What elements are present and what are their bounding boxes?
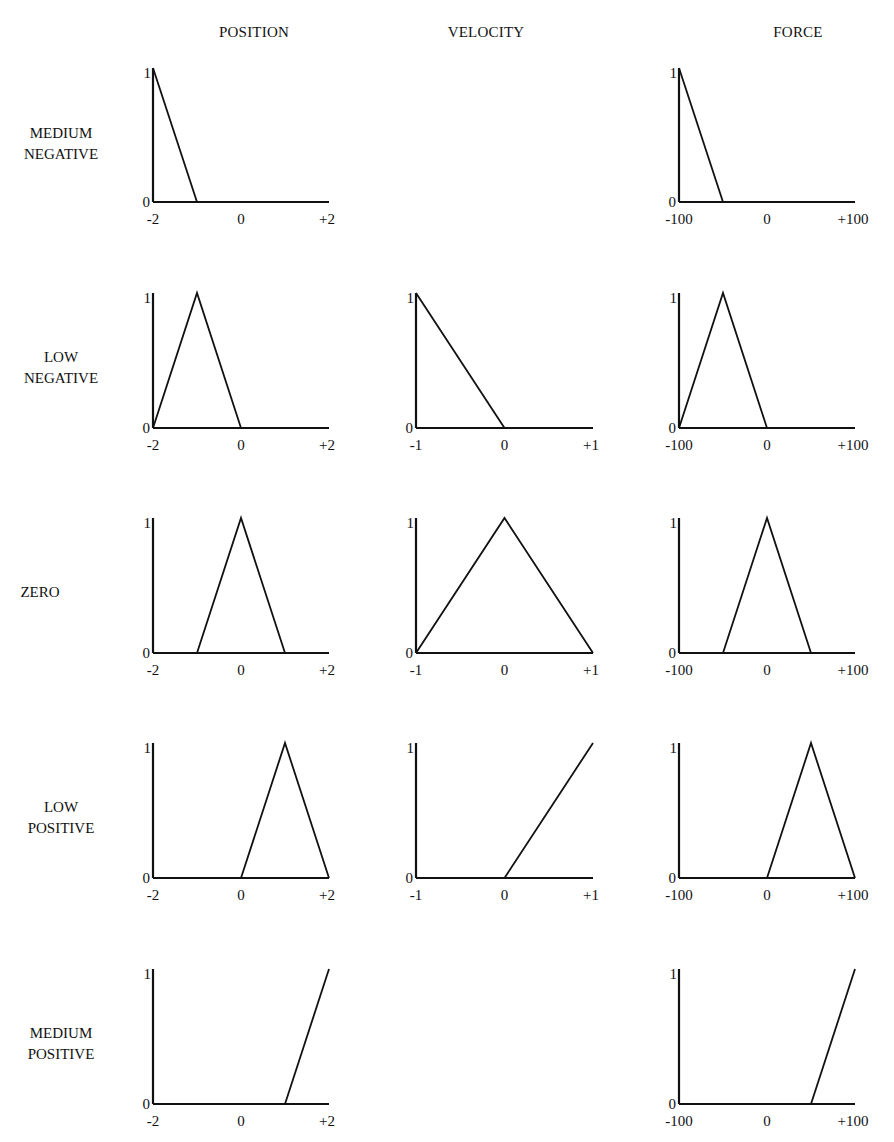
y-tick-0: 0 <box>669 645 677 661</box>
y-tick-0: 0 <box>406 420 414 436</box>
membership-curve-zero-force <box>723 518 811 653</box>
y-tick-1: 1 <box>144 740 152 756</box>
x-tick-min: -2 <box>147 1113 160 1129</box>
x-tick-mid: 0 <box>763 887 771 903</box>
x-tick-max: +100 <box>838 887 869 903</box>
y-tick-0: 0 <box>143 1096 151 1112</box>
membership-curve-low-positive-velocity <box>505 743 594 878</box>
x-tick-min: -2 <box>147 211 160 227</box>
membership-curve-low-negative-position <box>153 293 241 428</box>
x-tick-min: -2 <box>147 662 160 678</box>
x-tick-mid: 0 <box>501 437 509 453</box>
x-tick-max: +2 <box>319 211 335 227</box>
x-tick-mid: 0 <box>501 662 509 678</box>
x-tick-max: +100 <box>838 662 869 678</box>
membership-curve-medium-negative-force <box>679 68 723 202</box>
x-tick-min: -1 <box>410 437 423 453</box>
y-tick-1: 1 <box>670 740 678 756</box>
x-tick-min: -1 <box>410 887 423 903</box>
membership-curve-medium-negative-position <box>153 68 197 202</box>
y-tick-0: 0 <box>143 645 151 661</box>
membership-curve-medium-positive-force <box>811 969 855 1104</box>
y-tick-0: 0 <box>669 194 677 210</box>
x-tick-max: +1 <box>583 887 599 903</box>
x-tick-min: -2 <box>147 437 160 453</box>
y-tick-1: 1 <box>407 740 415 756</box>
x-tick-max: +1 <box>583 662 599 678</box>
y-tick-1: 1 <box>144 515 152 531</box>
x-tick-mid: 0 <box>237 662 245 678</box>
x-tick-min: -100 <box>665 437 693 453</box>
y-tick-0: 0 <box>143 870 151 886</box>
x-tick-max: +2 <box>319 437 335 453</box>
x-tick-mid: 0 <box>237 437 245 453</box>
y-tick-1: 1 <box>144 290 152 306</box>
x-tick-min: -100 <box>665 887 693 903</box>
membership-curve-zero-velocity <box>416 518 593 653</box>
y-tick-1: 1 <box>670 65 678 81</box>
x-tick-mid: 0 <box>237 211 245 227</box>
x-tick-mid: 0 <box>763 1113 771 1129</box>
x-tick-max: +1 <box>583 437 599 453</box>
y-tick-0: 0 <box>143 194 151 210</box>
x-tick-mid: 0 <box>763 662 771 678</box>
y-tick-1: 1 <box>144 966 152 982</box>
x-tick-min: -2 <box>147 887 160 903</box>
x-tick-min: -100 <box>665 662 693 678</box>
y-tick-1: 1 <box>407 515 415 531</box>
y-tick-0: 0 <box>143 420 151 436</box>
membership-curve-low-positive-force <box>767 743 855 878</box>
x-tick-max: +100 <box>838 1113 869 1129</box>
x-tick-min: -1 <box>410 662 423 678</box>
x-tick-max: +100 <box>838 211 869 227</box>
y-tick-1: 1 <box>670 515 678 531</box>
y-tick-0: 0 <box>406 645 414 661</box>
membership-curve-low-negative-velocity <box>416 293 505 428</box>
membership-curve-low-negative-force <box>679 293 767 428</box>
x-tick-max: +100 <box>838 437 869 453</box>
x-tick-max: +2 <box>319 1113 335 1129</box>
membership-curve-zero-position <box>197 518 285 653</box>
membership-curve-medium-positive-position <box>285 969 329 1104</box>
y-tick-0: 0 <box>406 870 414 886</box>
x-tick-min: -100 <box>665 1113 693 1129</box>
x-tick-max: +2 <box>319 662 335 678</box>
x-tick-mid: 0 <box>763 437 771 453</box>
membership-function-grid: 01-20+201-1000+10001-20+201-10+101-1000+… <box>0 0 894 1142</box>
y-tick-0: 0 <box>669 1096 677 1112</box>
y-tick-0: 0 <box>669 420 677 436</box>
x-tick-max: +2 <box>319 887 335 903</box>
membership-curve-low-positive-position <box>241 743 329 878</box>
y-tick-0: 0 <box>669 870 677 886</box>
x-tick-mid: 0 <box>501 887 509 903</box>
x-tick-mid: 0 <box>763 211 771 227</box>
y-tick-1: 1 <box>407 290 415 306</box>
y-tick-1: 1 <box>670 966 678 982</box>
y-tick-1: 1 <box>144 65 152 81</box>
x-tick-min: -100 <box>665 211 693 227</box>
x-tick-mid: 0 <box>237 1113 245 1129</box>
y-tick-1: 1 <box>670 290 678 306</box>
x-tick-mid: 0 <box>237 887 245 903</box>
